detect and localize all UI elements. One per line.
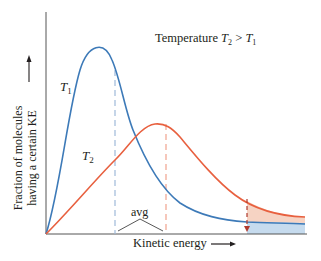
svg-text:Fraction of molecules: Fraction of molecules — [11, 105, 25, 210]
t2-label: T2 — [82, 148, 94, 165]
t1-curve — [46, 47, 305, 234]
chart-title: Temperature T2 > T1 — [155, 31, 256, 47]
t1-label: T1 — [60, 79, 72, 96]
x-arrow-head-icon — [230, 242, 236, 247]
svg-text:having a certain KE: having a certain KE — [25, 110, 39, 206]
avg-bracket — [118, 219, 163, 231]
y-arrow-head-icon — [27, 55, 32, 62]
maxwell-boltzmann-chart: avg T1 T2 Temperature T2 > T1 Fraction o… — [0, 0, 321, 261]
y-axis-label: Fraction of molecules having a certain K… — [11, 105, 39, 210]
avg-label: avg — [131, 205, 148, 219]
t2-tail-shade — [247, 201, 305, 223]
x-axis-label: Kinetic energy — [133, 236, 207, 250]
